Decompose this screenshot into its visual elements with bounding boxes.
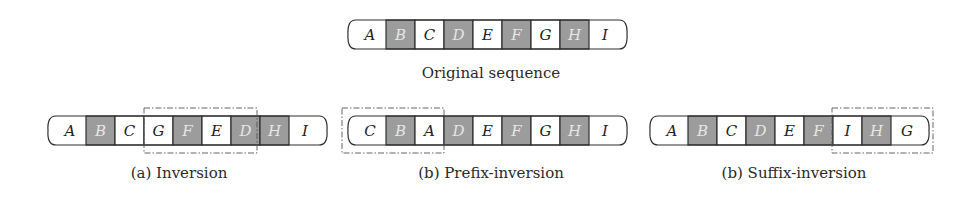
cell-label: E [210, 122, 222, 140]
cell-label: B [394, 122, 406, 140]
cell-label: D [451, 26, 464, 44]
cell-label: C [364, 122, 376, 140]
cell-label: I [601, 122, 609, 140]
cell-label: A [363, 26, 376, 44]
cell-label: H [567, 122, 582, 140]
cell-label: H [869, 122, 884, 140]
cell-label: B [696, 122, 708, 140]
caption-original: Original sequence [422, 64, 561, 82]
cell-label: H [567, 26, 582, 44]
cell-label: E [481, 122, 493, 140]
sequence-inversion-diagram: ABCDEFGHIOriginal sequenceABCGFEDHI(a) I… [0, 0, 977, 201]
cell-label: C [124, 122, 136, 140]
caption-prefix-inversion: (b) Prefix-inversion [418, 164, 564, 182]
cell-label: C [424, 26, 436, 44]
cell-label: G [540, 122, 552, 140]
cell-label: F [812, 122, 824, 140]
cell-label: H [267, 122, 282, 140]
cell-label: G [153, 122, 165, 140]
cell-label: A [63, 122, 76, 140]
cell-label: F [510, 122, 522, 140]
cell-label: I [601, 26, 609, 44]
cell-label: E [783, 122, 795, 140]
cell-label: F [510, 26, 522, 44]
cell-label: F [181, 122, 193, 140]
cell-label: D [451, 122, 464, 140]
sequence-suffix-inversion: ABCDEFIHG(b) Suffix-inversion [650, 108, 933, 182]
cell-label: A [665, 122, 678, 140]
cell-label: E [481, 26, 493, 44]
caption-inversion: (a) Inversion [131, 164, 228, 182]
caption-suffix-inversion: (b) Suffix-inversion [722, 164, 867, 182]
cell-label: B [394, 26, 406, 44]
cell-label: G [901, 122, 913, 140]
cell-label: D [753, 122, 766, 140]
cell-label: I [844, 122, 852, 140]
cell-label: C [726, 122, 738, 140]
cell-label: D [238, 122, 251, 140]
cell-label: G [540, 26, 552, 44]
cell-label: I [301, 122, 309, 140]
cell-label: B [94, 122, 106, 140]
cell-label: A [422, 122, 435, 140]
sequence-prefix-inversion: CBADEFGHI(b) Prefix-inversion [342, 108, 627, 182]
sequence-original: ABCDEFGHIOriginal sequence [348, 20, 627, 82]
sequence-inversion: ABCGFEDHI(a) Inversion [48, 108, 327, 182]
